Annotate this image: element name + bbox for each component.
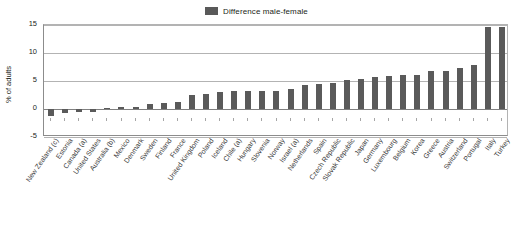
bar <box>259 91 265 109</box>
bar <box>471 65 477 109</box>
x-tick-mark <box>416 118 417 121</box>
y-axis-tick-labels: 151050-5 <box>14 18 40 136</box>
bar <box>372 77 378 109</box>
x-tick-mark <box>64 118 65 121</box>
x-tick-mark <box>219 118 220 121</box>
x-tick-mark <box>487 118 488 121</box>
x-tick-mark <box>431 118 432 121</box>
x-tick-label: Italy <box>483 137 496 152</box>
bar <box>203 94 209 109</box>
bar <box>414 75 420 109</box>
x-tick-mark <box>121 118 122 121</box>
bar <box>330 83 336 109</box>
x-tick-mark <box>276 118 277 121</box>
bar <box>90 109 96 112</box>
x-tick-mark <box>149 118 150 121</box>
chart-legend: Difference male-female <box>0 4 513 18</box>
bar <box>316 84 322 109</box>
bar <box>175 102 181 109</box>
bar <box>457 68 463 109</box>
x-tick-mark <box>374 118 375 121</box>
bar <box>231 91 237 109</box>
x-tick-mark <box>191 118 192 121</box>
x-tick-mark <box>233 118 234 121</box>
x-tick-mark <box>247 118 248 121</box>
x-tick-mark <box>445 118 446 121</box>
x-tick-mark <box>402 118 403 121</box>
bar <box>189 95 195 109</box>
x-tick-mark <box>346 118 347 121</box>
bar <box>147 104 153 109</box>
bar <box>344 80 350 109</box>
legend-label: Difference male-female <box>223 7 308 16</box>
y-tick-label: 5 <box>33 76 37 84</box>
y-tick-label: 0 <box>33 104 37 112</box>
x-tick-mark <box>261 118 262 121</box>
x-tick-mark <box>106 118 107 121</box>
x-tick-mark <box>318 118 319 121</box>
x-tick-mark <box>388 118 389 121</box>
x-tick-mark <box>290 118 291 121</box>
y-axis-title: % of adults <box>2 54 14 114</box>
bar <box>48 109 54 116</box>
x-tick-mark <box>92 118 93 121</box>
x-tick-mark <box>163 118 164 121</box>
bar <box>217 92 223 109</box>
x-axis-tick-labels: New Zealand (c)EstoniaCanada (a)United S… <box>43 137 508 231</box>
bar <box>302 85 308 109</box>
bar <box>104 108 110 109</box>
x-tick-mark <box>459 118 460 121</box>
bar <box>499 27 505 109</box>
bar <box>485 27 491 109</box>
x-tick-mark <box>78 118 79 121</box>
x-tick-mark <box>304 118 305 121</box>
x-tick-mark <box>205 118 206 121</box>
bar <box>386 76 392 109</box>
bar <box>400 75 406 109</box>
x-tick-mark <box>360 118 361 121</box>
bar <box>76 109 82 112</box>
bar <box>133 107 139 109</box>
bar <box>358 79 364 109</box>
x-axis-tick-marks <box>43 118 508 122</box>
bar <box>161 103 167 109</box>
bar-chart: Difference male-female % of adults 15105… <box>0 0 513 231</box>
x-tick-mark <box>332 118 333 121</box>
bar <box>118 107 124 109</box>
bar <box>288 89 294 109</box>
legend-swatch-icon <box>205 7 218 15</box>
y-tick-label: -5 <box>30 132 37 140</box>
bar <box>62 109 68 113</box>
x-tick-mark <box>135 118 136 121</box>
x-tick-mark <box>473 118 474 121</box>
y-tick-label: 15 <box>29 20 37 28</box>
bar <box>245 91 251 109</box>
x-tick-mark <box>501 118 502 121</box>
x-tick-label: New Zealand (c) <box>25 137 60 183</box>
bar <box>273 91 279 109</box>
x-tick-mark <box>50 118 51 121</box>
bar <box>428 71 434 109</box>
bar <box>443 71 449 109</box>
x-tick-mark <box>177 118 178 121</box>
y-tick-label: 10 <box>29 48 37 56</box>
